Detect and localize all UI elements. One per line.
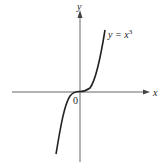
x-axis-arrow-icon xyxy=(143,90,150,95)
y-axis-label: y xyxy=(76,1,82,12)
cubic-function-graph: y x 0 y = x3 xyxy=(0,0,167,166)
curve-label-exponent: 3 xyxy=(129,28,133,36)
x-axis-label: x xyxy=(152,87,158,98)
curve-label-base: y = x xyxy=(107,29,129,40)
origin-label: 0 xyxy=(73,95,78,106)
curve-label: y = x3 xyxy=(107,28,133,40)
